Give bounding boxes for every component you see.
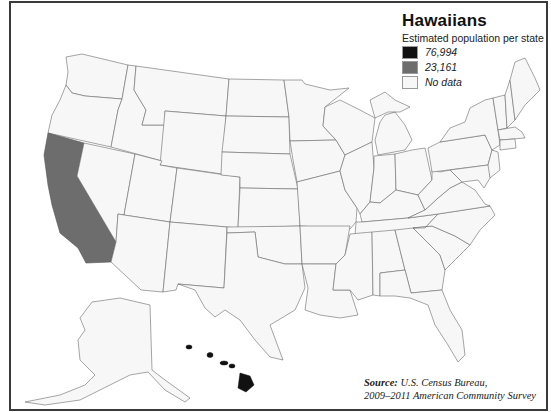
- source-line1: U.S. Census Bureau,: [400, 377, 487, 388]
- legend: Hawaiians Estimated population per state…: [402, 11, 544, 89]
- legend-label: 76,994: [425, 46, 457, 58]
- legend-swatch-nodata: [402, 76, 418, 89]
- legend-item: 23,161: [402, 60, 544, 74]
- legend-item: No data: [402, 75, 544, 89]
- state-washington: [66, 54, 128, 99]
- state-arizona: [111, 214, 170, 292]
- legend-swatch-mid: [402, 61, 418, 74]
- state-kansas: [238, 188, 300, 228]
- state-north-dakota: [226, 79, 289, 117]
- state-colorado: [170, 168, 240, 228]
- state-new-mexico: [163, 222, 227, 292]
- state-hawaii[interactable]: [186, 345, 254, 392]
- source-line2: 2009–2011 American Community Survey: [364, 390, 536, 401]
- legend-label: No data: [425, 76, 462, 88]
- state-south-dakota: [222, 116, 290, 154]
- state-michigan: [370, 92, 412, 155]
- legend-label: 23,161: [425, 61, 457, 73]
- legend-title: Hawaiians: [402, 11, 544, 31]
- legend-item: 76,994: [402, 45, 544, 59]
- source-note: Source: U.S. Census Bureau, 2009–2011 Am…: [364, 376, 536, 402]
- source-label: Source:: [364, 377, 398, 388]
- state-connecticut: [500, 139, 516, 150]
- state-wyoming: [160, 111, 226, 174]
- legend-swatch-high: [402, 46, 418, 59]
- state-alaska: [25, 298, 190, 405]
- legend-subtitle: Estimated population per state: [402, 32, 544, 44]
